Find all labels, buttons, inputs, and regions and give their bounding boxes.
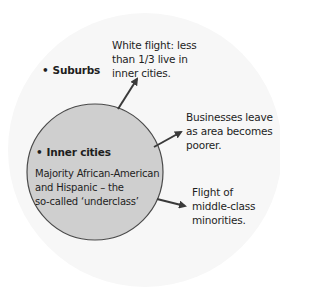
inner-cities-label: Inner cities <box>36 145 111 159</box>
text-line: Majority African-American <box>35 167 159 181</box>
text-line: inner cities. <box>112 66 196 80</box>
text-line: middle-class <box>192 199 255 213</box>
text-line: Businesses leave <box>186 110 273 124</box>
middle-class-flight-text: Flight of middle-class minorities. <box>192 185 255 227</box>
text-line: minorities. <box>192 213 255 227</box>
text-line: than 1/3 live in <box>112 52 196 66</box>
white-flight-text: White flight: less than 1/3 live in inne… <box>112 38 196 80</box>
businesses-leave-text: Businesses leave as area becomes poorer. <box>186 110 273 152</box>
inner-cities-description: Majority African-American and Hispanic –… <box>35 167 159 209</box>
text-line: so-called ‘underclass’ <box>35 195 159 209</box>
text-line: Flight of <box>192 185 255 199</box>
text-line: and Hispanic – the <box>35 181 159 195</box>
text-line: poorer. <box>186 138 273 152</box>
suburbs-label: Suburbs <box>42 63 100 77</box>
text-line: as area becomes <box>186 124 273 138</box>
text-line: White flight: less <box>112 38 196 52</box>
